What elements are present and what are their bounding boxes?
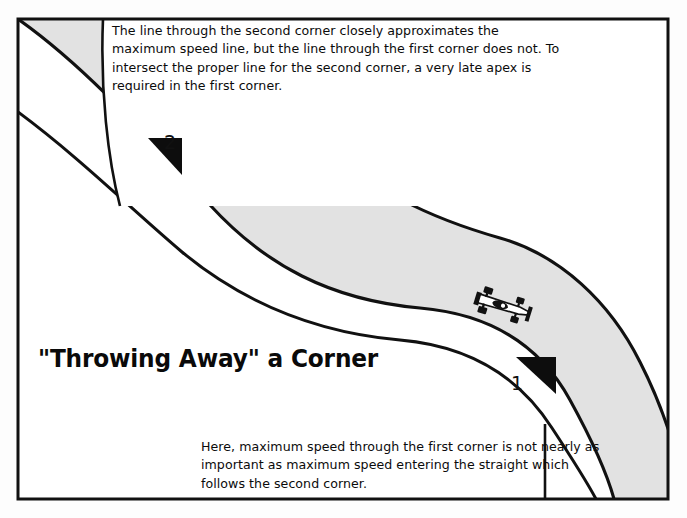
corner-marker-2-label: 2 <box>164 133 176 152</box>
top-explanation-text: The line through the second corner close… <box>112 22 562 95</box>
bottom-explanation-text: Here, maximum speed through the first co… <box>201 438 601 493</box>
figure-title: "Throwing Away" a Corner <box>38 344 378 373</box>
diagram-page: The line through the second corner close… <box>0 0 687 518</box>
corner-marker-1-label: 1 <box>511 374 523 393</box>
